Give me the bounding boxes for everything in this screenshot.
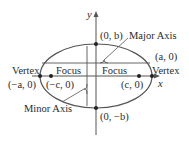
minor-axis-label: Minor Axis — [24, 103, 72, 114]
y-axis-label: y — [86, 9, 92, 20]
bottom-covertex-label: (0, −b) — [100, 111, 129, 123]
right-focus-point — [137, 74, 141, 78]
major-axis-leader — [104, 38, 128, 60]
left-focus-label: Focus — [56, 65, 81, 76]
right-vertex-coord-label: (a, 0) — [155, 51, 178, 63]
right-focus-coord-label: (c, 0) — [121, 79, 144, 91]
left-focus-point — [49, 74, 53, 78]
ellipse-diagram: y x (0, b) Major Axis (a, 0) Vertex Focu… — [0, 0, 189, 144]
minor-axis-leader — [62, 89, 84, 102]
y-axis-arrow-icon — [94, 11, 99, 17]
x-axis-label: x — [157, 78, 163, 89]
right-focus-label: Focus — [102, 65, 127, 76]
major-axis-label: Major Axis — [129, 30, 177, 41]
top-covertex-label: (0, b) — [100, 30, 123, 42]
bottom-covertex-point — [94, 106, 98, 110]
left-focus-coord-label: (−c, 0) — [46, 79, 75, 91]
right-vertex-label: Vertex — [152, 65, 180, 76]
left-vertex-coord-label: (−a, 0) — [8, 79, 37, 91]
top-covertex-point — [94, 42, 98, 46]
left-vertex-label: Vertex — [12, 65, 40, 76]
